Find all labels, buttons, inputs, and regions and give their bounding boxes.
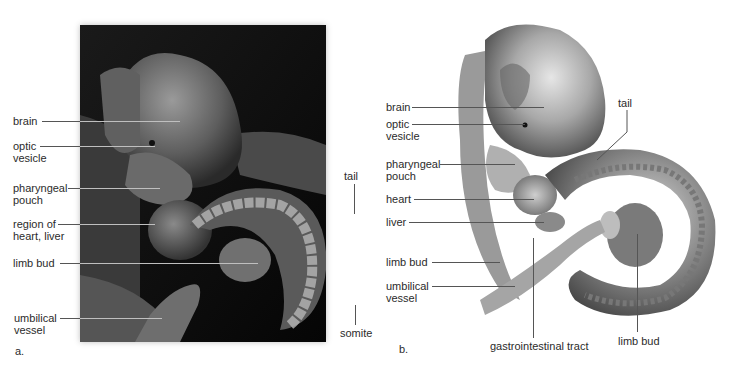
leader-line [68, 188, 80, 189]
leader-line [80, 224, 155, 225]
label-gastrointestinal-tract-b: gastrointestinal tract [490, 340, 588, 352]
embryo-micrograph-illustration [80, 25, 326, 342]
label-umbilical-vessel-a: umbilical vessel [14, 312, 57, 336]
label-brain-a: brain [13, 115, 37, 127]
tail-leader-line [370, 0, 736, 366]
leader-line [80, 121, 180, 122]
label-optic-vesicle-a: optic vesicle [13, 140, 47, 164]
leader-line [80, 146, 155, 147]
panel-letter-b: b. [399, 343, 408, 355]
leader-line [355, 305, 356, 325]
label-somite-a: somite [340, 327, 372, 339]
panel-a-micrograph: brain optic vesicle pharyngeal pouch reg… [0, 0, 370, 366]
leader-line [80, 188, 160, 189]
label-tail-a: tail [344, 170, 358, 182]
label-limb-bud-a: limb bud [13, 257, 55, 269]
embryo-micrograph-image [80, 25, 326, 342]
leader-line [40, 146, 80, 147]
leader-line [80, 263, 258, 264]
leader-line [58, 224, 80, 225]
leader-line [60, 263, 80, 264]
label-pharyngeal-pouch-a: pharyngeal pouch [13, 182, 67, 206]
leader-line [637, 234, 638, 332]
panel-b-illustration: brain optic vesicle pharyngeal pouch hea… [370, 0, 736, 366]
leader-line [60, 318, 80, 319]
label-region-heart-liver-a: region of heart, liver [13, 218, 64, 242]
leader-line [354, 184, 355, 214]
leader-line [42, 121, 80, 122]
label-limb-bud-bottom-b: limb bud [618, 335, 660, 347]
panel-letter-a: a. [15, 345, 24, 357]
leader-line [80, 318, 162, 319]
leader-line [533, 238, 534, 338]
